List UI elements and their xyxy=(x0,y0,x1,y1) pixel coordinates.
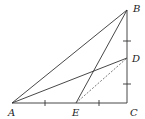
segment-be xyxy=(76,10,127,103)
segment-ed-dashed xyxy=(76,58,127,103)
label-point-e: E xyxy=(71,107,80,118)
segments xyxy=(12,10,127,103)
label-point-d: D xyxy=(131,53,140,64)
label-point-a: A xyxy=(7,107,15,118)
geometry-diagram: A B C D E xyxy=(0,0,145,119)
label-point-c: C xyxy=(130,107,138,118)
label-point-b: B xyxy=(132,3,140,14)
segment-ad xyxy=(12,58,127,103)
segment-ab xyxy=(12,10,127,103)
